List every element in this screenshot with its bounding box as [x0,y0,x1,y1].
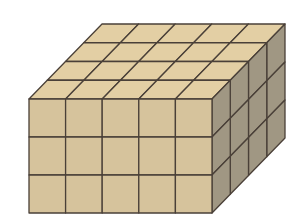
front-cube-face [139,137,176,175]
cube-prism-diagram [0,0,308,224]
front-cube-face [29,175,66,213]
front-cube-face [139,175,176,213]
front-cube-face [139,99,176,137]
front-cube-face [29,137,66,175]
figure-container [0,0,308,224]
front-cube-face [175,175,212,213]
front-cube-face [102,175,139,213]
front-cube-face [175,137,212,175]
front-face [29,99,212,213]
front-cube-face [102,137,139,175]
front-cube-face [66,175,103,213]
front-cube-face [175,99,212,137]
front-cube-face [66,137,103,175]
front-cube-face [102,99,139,137]
front-cube-face [66,99,103,137]
front-cube-face [29,99,66,137]
